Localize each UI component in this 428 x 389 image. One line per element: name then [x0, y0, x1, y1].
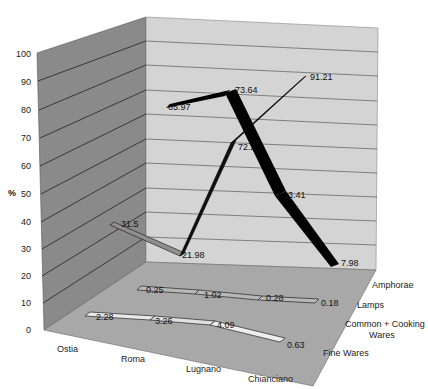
- svg-text:70: 70: [21, 133, 31, 143]
- svg-text:Lugnano: Lugnano: [186, 364, 221, 374]
- svg-text:0.63: 0.63: [287, 340, 305, 350]
- y-axis-ticks: 0 10 20 30 40 50 60 70 80 90 100: [16, 49, 31, 335]
- svg-text:0.18: 0.18: [321, 298, 339, 308]
- svg-text:0.25: 0.25: [146, 285, 164, 295]
- svg-text:100: 100: [16, 49, 31, 59]
- svg-text:10: 10: [21, 298, 31, 308]
- svg-text:21.98: 21.98: [182, 250, 205, 260]
- svg-text:90: 90: [21, 77, 31, 87]
- svg-text:0.28: 0.28: [266, 293, 284, 303]
- svg-text:73.64: 73.64: [235, 85, 258, 95]
- svg-text:1.02: 1.02: [204, 290, 222, 300]
- svg-text:91.21: 91.21: [310, 72, 333, 82]
- svg-text:0: 0: [26, 325, 31, 335]
- svg-text:Common + Cooking: Common + Cooking: [345, 319, 425, 329]
- svg-text:50: 50: [21, 189, 31, 199]
- svg-text:Wares: Wares: [369, 330, 395, 340]
- svg-text:Lamps: Lamps: [357, 300, 385, 310]
- svg-text:7.98: 7.98: [341, 258, 359, 268]
- svg-text:65.97: 65.97: [168, 102, 191, 112]
- svg-text:31.5: 31.5: [121, 219, 139, 229]
- svg-text:Amphorae: Amphorae: [372, 280, 414, 290]
- svg-text:60: 60: [21, 161, 31, 171]
- svg-text:Fine Wares: Fine Wares: [323, 348, 369, 358]
- svg-text:4.09: 4.09: [217, 320, 235, 330]
- svg-text:Chianciano: Chianciano: [248, 374, 293, 384]
- svg-text:3.26: 3.26: [155, 316, 173, 326]
- chart: 0 10 20 30 40 50 60 70 80 90 100 % Ostia…: [0, 0, 428, 389]
- svg-text:80: 80: [21, 105, 31, 115]
- svg-text:Ostia: Ostia: [57, 344, 78, 354]
- svg-text:20: 20: [21, 271, 31, 281]
- svg-text:30: 30: [21, 244, 31, 254]
- y-axis-label: %: [8, 188, 16, 198]
- svg-text:2.28: 2.28: [96, 312, 114, 322]
- svg-text:23.41: 23.41: [283, 190, 306, 200]
- svg-text:40: 40: [21, 217, 31, 227]
- svg-text:Roma: Roma: [121, 354, 145, 364]
